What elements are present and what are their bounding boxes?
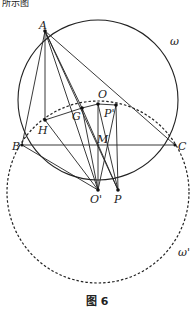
label-A: A bbox=[38, 19, 47, 32]
label-P: P bbox=[113, 193, 122, 206]
label-omega-prime: ω' bbox=[178, 246, 190, 259]
label-B: B bbox=[11, 140, 20, 153]
label-P-prime: P' bbox=[103, 107, 114, 120]
label-G: G bbox=[72, 110, 81, 123]
label-O: O bbox=[98, 88, 107, 101]
label-C: C bbox=[178, 140, 187, 153]
label-H: H bbox=[37, 124, 48, 137]
label-omega: ω bbox=[170, 35, 179, 48]
label-O-prime: O' bbox=[90, 193, 102, 206]
construction-lines bbox=[22, 31, 175, 190]
figure-caption: 图 6 bbox=[86, 295, 109, 308]
geometry-figure: A B C H G O P' M O' P ω ω' 图 6 bbox=[0, 0, 195, 309]
points bbox=[21, 29, 177, 192]
label-M: M bbox=[96, 133, 109, 146]
